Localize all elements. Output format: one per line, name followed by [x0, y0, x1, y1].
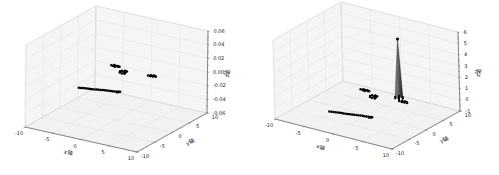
z-tick-label: -0.06	[213, 110, 226, 116]
z-tick-label: 0.06	[214, 28, 225, 34]
z-axis-label: z轴	[223, 69, 231, 78]
scatter-point	[119, 91, 122, 94]
z-tick-label: 1	[465, 85, 468, 91]
right-3d-scatter-plot: -10-50510-10-50510-10123456x轴y轴z轴	[265, 2, 482, 158]
x-tick-label: 0	[73, 143, 76, 149]
scatter-point	[357, 114, 360, 117]
scatter-point	[398, 100, 401, 103]
z-tick-label: 0	[465, 96, 468, 102]
scatter-point	[404, 100, 407, 103]
spike-apex-point	[396, 38, 399, 41]
x-axis-label: x轴	[63, 148, 74, 158]
z-tick-label: 0.00	[213, 69, 224, 75]
left-3d-scatter-plot: -10-50510-10-50510-0.06-0.04-0.020.000.0…	[15, 6, 231, 161]
scatter-point	[332, 111, 335, 114]
scatter-point	[330, 110, 333, 113]
scatter-point	[342, 112, 345, 115]
spike-base-point	[402, 96, 404, 98]
z-tick-label: -0.02	[213, 82, 226, 88]
z-tick-label: 2	[465, 74, 468, 80]
z-tick-label: 6	[464, 29, 467, 35]
z-tick-label: 0.04	[213, 41, 224, 47]
x-tick-label: -10	[265, 122, 273, 128]
3d-figure-svg: -10-50510-10-50510-0.06-0.04-0.020.000.0…	[0, 0, 499, 175]
y-axis-label: y轴	[184, 136, 196, 147]
z-tick-label: 4	[464, 51, 467, 57]
z-tick-label: 5	[464, 40, 467, 46]
z-tick-label: 3	[464, 63, 467, 69]
y-tick-label: 0	[178, 133, 181, 139]
y-tick-label: -5	[415, 140, 420, 146]
scatter-point	[118, 66, 121, 69]
scatter-point	[347, 113, 350, 116]
x-tick-label: 0	[326, 137, 329, 143]
scatter-point	[365, 115, 368, 118]
y-tick-label: -10	[396, 150, 404, 156]
scatter-point	[147, 74, 150, 77]
figure-canvas: -10-50510-10-50510-0.06-0.04-0.020.000.0…	[0, 0, 499, 175]
z-axis-label: z轴	[474, 68, 482, 77]
scatter-point	[123, 71, 126, 74]
z-tick-label: -0.04	[213, 96, 226, 102]
z-tick-label: -1	[466, 108, 471, 114]
spike-base-point	[398, 97, 400, 99]
scatter-point	[369, 96, 372, 99]
scatter-point	[337, 111, 340, 114]
y-axis-label: y轴	[438, 134, 450, 146]
x-tick-label: 10	[128, 155, 134, 161]
scatter-point	[371, 116, 374, 119]
z-tick-label: 0.02	[213, 55, 224, 61]
x-tick-label: 5	[355, 145, 358, 151]
x-tick-label: -5	[296, 130, 301, 136]
y-tick-label: 0	[432, 131, 435, 137]
y-tick-label: 5	[196, 123, 199, 129]
y-tick-label: 5	[449, 121, 452, 127]
y-tick-label: -5	[160, 143, 165, 149]
spike-base-point	[394, 96, 396, 98]
x-axis-label: x轴	[316, 142, 327, 152]
scatter-point	[363, 89, 366, 92]
x-tick-label: 5	[101, 149, 104, 155]
scatter-point	[149, 74, 152, 77]
scatter-point	[351, 113, 354, 116]
x-tick-label: 10	[383, 152, 389, 158]
scatter-point	[373, 95, 376, 98]
x-tick-label: -10	[15, 130, 23, 136]
scatter-point	[368, 90, 371, 93]
scatter-point	[401, 100, 404, 103]
scatter-point	[353, 114, 356, 117]
scatter-point	[153, 74, 156, 77]
scatter-point	[113, 65, 116, 68]
y-tick-label: -10	[141, 153, 149, 159]
x-tick-label: -5	[45, 136, 50, 142]
